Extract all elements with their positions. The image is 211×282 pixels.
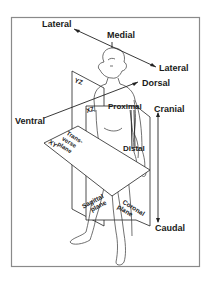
label-distal: Distal <box>123 144 145 153</box>
label-ventral: Ventral <box>15 116 45 126</box>
label-caudal: Caudal <box>155 223 185 233</box>
label-cranial: Cranial <box>154 104 185 114</box>
label-medial: Medial <box>107 30 135 40</box>
label-proximal: Proximal <box>108 102 142 111</box>
label-lateral-right: Lateral <box>159 63 189 73</box>
label-dorsal: Dorsal <box>142 78 170 88</box>
label-lateral-left: Lateral <box>42 19 72 29</box>
anatomical-planes-figure: Lateral Medial Lateral Dorsal Ventral Cr… <box>0 0 211 282</box>
